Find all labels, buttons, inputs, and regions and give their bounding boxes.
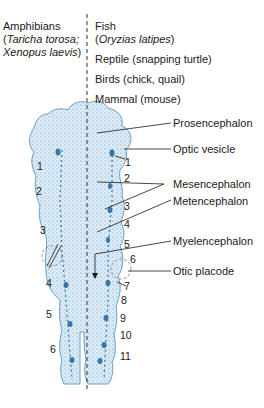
right-num-3: 3 (124, 200, 130, 212)
right-num-6: 6 (130, 253, 136, 265)
right-num-2: 2 (124, 172, 130, 184)
amphibians-label: Amphibians (Taricha torosa; Xenopus laev… (3, 20, 81, 59)
embryo-outline (30, 101, 131, 384)
left-num-6: 6 (50, 343, 56, 355)
right-num-8: 8 (121, 294, 127, 306)
left-num-4: 4 (46, 277, 52, 289)
right-num-11: 11 (120, 350, 131, 362)
right-num-9: 9 (120, 312, 126, 324)
left-num-2: 2 (36, 185, 42, 197)
reptile-label: Reptile (snapping turtle) (95, 53, 212, 66)
label-myelencephalon: Myelencephalon (173, 235, 253, 248)
mammal-label: Mammal (mouse) (95, 93, 181, 106)
label-optic-vesicle: Optic vesicle (173, 143, 235, 156)
right-num-1: 1 (125, 156, 131, 168)
label-prosencephalon: Prosencephalon (173, 117, 253, 130)
left-num-1: 1 (37, 160, 43, 172)
label-metencephalon: Metencephalon (173, 195, 248, 208)
right-num-5: 5 (124, 238, 130, 250)
label-mesencephalon: Mesencephalon (173, 178, 251, 191)
right-num-7: 7 (124, 280, 130, 292)
label-otic-placode: Otic placode (173, 265, 234, 278)
right-num-10: 10 (120, 329, 132, 341)
fish-label: Fish (Oryzias latipes) (95, 20, 174, 46)
birds-label: Birds (chick, quail) (95, 73, 185, 86)
left-num-5: 5 (46, 308, 52, 320)
left-num-3: 3 (40, 224, 46, 236)
right-num-4: 4 (124, 218, 130, 230)
